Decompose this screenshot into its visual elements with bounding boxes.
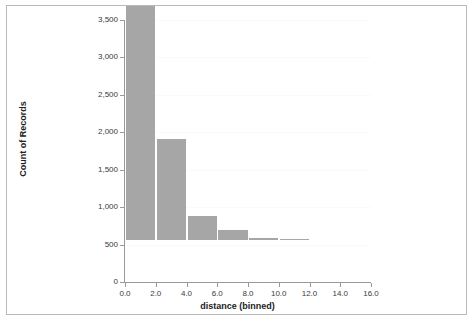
x-tick-mark [187, 283, 188, 287]
bar[interactable] [188, 216, 217, 240]
y-axis-title: Count of Records [18, 79, 28, 199]
x-tick-mark [340, 283, 341, 287]
bar[interactable] [249, 238, 278, 240]
x-tick-mark [248, 283, 249, 287]
x-tick-mark [310, 283, 311, 287]
x-axis-title: distance (binned) [7, 301, 467, 311]
bar[interactable] [280, 239, 309, 240]
x-tick-mark [125, 283, 126, 287]
bar[interactable] [126, 6, 155, 240]
x-tick-mark [279, 283, 280, 287]
y-tick-mark [120, 282, 124, 283]
bar[interactable] [157, 139, 186, 240]
x-tick-mark [371, 283, 372, 287]
bar-series [7, 6, 467, 282]
chart-card: 05001,0001,5002,0002,5003,0003,500 0.02.… [6, 5, 467, 315]
x-tick-mark [156, 283, 157, 287]
x-tick-mark [217, 283, 218, 287]
bar[interactable] [218, 230, 247, 240]
x-tick-label: 16.0 [351, 289, 391, 298]
